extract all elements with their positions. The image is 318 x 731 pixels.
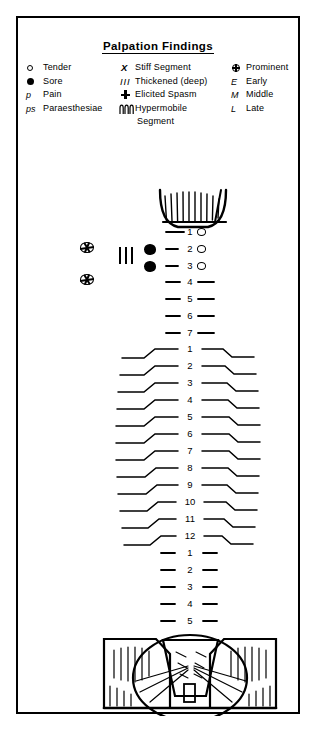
level-number-c5: 5 xyxy=(179,294,201,304)
level-number-l3: 3 xyxy=(179,582,201,592)
palpation-findings-card: Palpation Findings Tender Sore p Pain ps… xyxy=(16,16,300,714)
level-number-t8: 8 xyxy=(179,463,201,473)
spine-diagram: 1 2 3 4 5 6 7 1 2 3 4 5 6 7 8 9 10 11 12… xyxy=(18,18,302,716)
level-number-t3: 3 xyxy=(179,378,201,388)
level-number-l4: 4 xyxy=(179,599,201,609)
level-number-t9: 9 xyxy=(179,480,201,490)
marking-tender-c2[interactable] xyxy=(197,245,206,253)
marking-prominent-c3[interactable] xyxy=(80,274,94,285)
marking-thickened-bar-1[interactable] xyxy=(119,247,121,264)
level-number-c7: 7 xyxy=(179,328,201,338)
level-number-t6: 6 xyxy=(179,429,201,439)
marking-sore-c3[interactable] xyxy=(144,261,156,272)
marking-sore-c2[interactable] xyxy=(144,244,156,255)
level-number-c4: 4 xyxy=(179,277,201,287)
level-number-l1: 1 xyxy=(179,548,201,558)
marking-thickened-bar-2[interactable] xyxy=(125,247,127,264)
marking-prominent-c2[interactable] xyxy=(80,242,94,253)
level-number-t12: 12 xyxy=(179,531,201,541)
level-number-t2: 2 xyxy=(179,361,201,371)
level-number-t10: 10 xyxy=(179,497,201,507)
level-number-l5: 5 xyxy=(179,616,201,626)
level-number-l2: 2 xyxy=(179,565,201,575)
marking-tender-c1[interactable] xyxy=(197,228,206,236)
level-number-c6: 6 xyxy=(179,311,201,321)
level-number-t1: 1 xyxy=(179,344,201,354)
level-number-t5: 5 xyxy=(179,412,201,422)
spine-linework xyxy=(18,18,302,716)
level-number-t11: 11 xyxy=(179,514,201,524)
marking-tender-c3[interactable] xyxy=(197,262,206,270)
level-number-t4: 4 xyxy=(179,395,201,405)
marking-thickened-bar-3[interactable] xyxy=(131,247,133,264)
level-number-t7: 7 xyxy=(179,446,201,456)
